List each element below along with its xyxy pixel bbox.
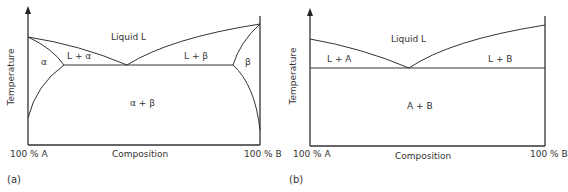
panel-b-region-a-b: A + B [407,102,433,111]
panel-b-ylabel: Temperature [288,47,298,104]
panel-a-beta-solvus [233,65,260,130]
panel-b-xlabel: Composition [395,152,451,161]
panel-b-x-left-label: 100 % A [293,150,331,159]
y-axis-arrow-icon [25,6,31,14]
panel-a-region-beta: β [245,58,251,67]
panel-a-region-l-beta: L + β [184,52,208,61]
panel-a-alpha-solvus [28,65,64,118]
panel-b-right-liquidus [409,25,545,68]
panel-a-x-right-label: 100 % B [244,150,282,159]
panel-a-region-l-alpha: L + α [67,52,91,61]
panel-a-region-alpha: α [41,58,47,67]
panel-a-diagram [25,6,260,145]
panel-b-diagram [307,8,545,146]
panel-b-region-liquid: Liquid L [391,35,426,44]
panel-b-x-right-label: 100 % B [530,150,568,159]
y-axis-arrow-icon [307,8,313,16]
panel-b-region-l-b: L + B [488,55,512,64]
panel-b-tag: (b) [289,174,303,185]
panel-a-xlabel: Composition [112,150,168,159]
panel-b-region-l-a: L + A [327,55,351,64]
panel-a-x-left-label: 100 % A [10,150,48,159]
panel-a-region-alpha-beta: α + β [130,99,155,108]
panel-a-ylabel: Temperature [6,48,16,105]
panel-a-tag: (a) [7,174,21,185]
panel-a-region-liquid: Liquid L [111,33,146,42]
